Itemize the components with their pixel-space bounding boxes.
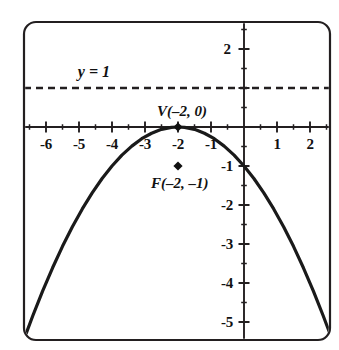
- y-tick-label: -3: [221, 237, 233, 252]
- y-tick-label: -2: [221, 198, 233, 213]
- y-tick-label: -4: [221, 276, 233, 291]
- x-tick-label: 1: [274, 137, 281, 152]
- x-tick-label: -2: [172, 137, 184, 152]
- x-tick-label: -6: [40, 137, 52, 152]
- x-tick-label: 2: [307, 137, 314, 152]
- y-tick-label: -5: [221, 315, 233, 330]
- vertex-label: V(–2, 0): [157, 104, 207, 119]
- x-tick-label: -1: [205, 137, 217, 152]
- focus-label: F(–2, –1): [151, 176, 209, 191]
- y-tick-label: -1: [221, 159, 233, 174]
- directrix-label: y = 1: [78, 64, 110, 80]
- x-tick-label: -3: [139, 137, 151, 152]
- x-tick-label: -4: [106, 137, 118, 152]
- x-tick-label: -5: [73, 137, 85, 152]
- y-tick-label: 2: [224, 42, 231, 57]
